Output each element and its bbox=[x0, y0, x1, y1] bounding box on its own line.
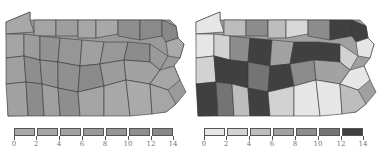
legend-swatch bbox=[227, 128, 248, 136]
legend-swatch bbox=[204, 128, 225, 136]
legend-tick-label: 10 bbox=[314, 140, 323, 148]
legend-right: 0 2 4 6 8 10 12 14 bbox=[204, 128, 368, 154]
legend-tick-label: 14 bbox=[359, 140, 368, 148]
legend-swatch bbox=[273, 128, 294, 136]
map-panel-right: 0 2 4 6 8 10 12 14 bbox=[190, 0, 380, 155]
legend-swatch bbox=[342, 128, 363, 136]
map-panel-left: 0 2 4 6 8 10 12 14 bbox=[0, 0, 190, 155]
legend-tick-label: 6 bbox=[270, 140, 274, 148]
legend-tick-label: 4 bbox=[247, 140, 251, 148]
legend-tick-label: 10 bbox=[124, 140, 133, 148]
legend-swatch bbox=[106, 128, 127, 136]
legend-tick-label: 0 bbox=[12, 140, 16, 148]
county-map-left bbox=[0, 0, 190, 118]
legend-tick-label: 6 bbox=[80, 140, 84, 148]
legend-tick-label: 14 bbox=[169, 140, 178, 148]
legend-tick-label: 8 bbox=[293, 140, 297, 148]
legend-swatch bbox=[250, 128, 271, 136]
legend-tick-label: 4 bbox=[57, 140, 61, 148]
legend-tick-label: 12 bbox=[147, 140, 156, 148]
legend-tick-label: 2 bbox=[34, 140, 38, 148]
legend-swatch bbox=[319, 128, 340, 136]
legend-tick-label: 8 bbox=[103, 140, 107, 148]
legend-tick-label: 0 bbox=[202, 140, 206, 148]
legend-swatch bbox=[296, 128, 317, 136]
legend-swatch bbox=[152, 128, 173, 136]
legend-tick-label: 12 bbox=[337, 140, 346, 148]
legend-swatch bbox=[60, 128, 81, 136]
legend-swatch bbox=[37, 128, 58, 136]
county-map-right bbox=[190, 0, 380, 118]
legend-swatch bbox=[83, 128, 104, 136]
legend-swatch bbox=[14, 128, 35, 136]
legend-swatch bbox=[129, 128, 150, 136]
legend-tick-label: 2 bbox=[224, 140, 228, 148]
legend-left: 0 2 4 6 8 10 12 14 bbox=[14, 128, 178, 154]
